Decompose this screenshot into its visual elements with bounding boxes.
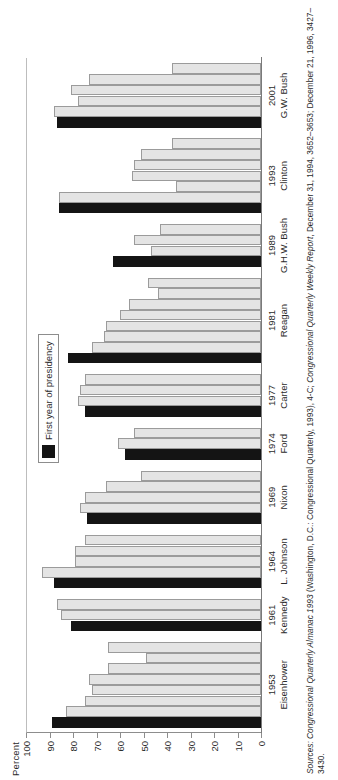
bar-subsequent-year — [134, 235, 261, 246]
bar-first-year — [68, 353, 261, 364]
bar-subsequent-year — [75, 556, 261, 567]
value-axis-tick-mark — [73, 733, 74, 738]
bar-first-year — [71, 621, 261, 632]
bar-subsequent-year — [57, 599, 261, 610]
category-label-year: 1964 — [266, 538, 278, 584]
value-axis-tick-label: 30 — [185, 741, 196, 771]
category-label-president: G.W. Bush — [278, 73, 290, 118]
bar-subsequent-year — [134, 428, 261, 439]
bar-subsequent-year — [75, 546, 261, 557]
bar-subsequent-year — [85, 696, 261, 707]
bar-subsequent-year — [129, 299, 261, 310]
category-label-1961: 1961Kennedy — [266, 596, 289, 634]
bar-subsequent-year — [89, 674, 261, 685]
category-label-president: Nixon — [278, 485, 290, 509]
bar-subsequent-year — [108, 663, 261, 674]
category-label-year: 1977 — [266, 382, 278, 408]
bar-first-year — [54, 578, 261, 589]
category-label-year: 1974 — [266, 433, 278, 454]
bar-subsequent-year — [54, 106, 261, 117]
source-italic-1: Congressional Quarterly Almanac 1993 — [305, 594, 315, 739]
bar-subsequent-year — [59, 192, 261, 203]
value-axis-title: Percent — [10, 742, 21, 776]
bar-subsequent-year — [146, 653, 261, 664]
category-label-year: 1989 — [266, 218, 278, 273]
value-axis-tick-mark — [26, 733, 27, 738]
bar-subsequent-year — [85, 374, 261, 385]
category-label-president: Carter — [278, 382, 290, 408]
category-label-president: L. Johnson — [278, 538, 290, 584]
bar-first-year — [87, 513, 261, 524]
bar-subsequent-year — [92, 342, 261, 353]
bar-subsequent-year — [118, 438, 261, 449]
value-axis-tick-label: 50 — [138, 741, 149, 771]
category-label-1964: 1964L. Johnson — [266, 538, 289, 584]
bar-subsequent-year — [106, 481, 261, 492]
bar-subsequent-year — [120, 310, 261, 321]
bar-subsequent-year — [176, 181, 261, 192]
value-axis-tick-label: 90 — [44, 741, 55, 771]
value-axis-tick-label: 20 — [209, 741, 220, 771]
category-label-2001: 2001G.W. Bush — [266, 73, 289, 118]
category-label-year: 1953 — [266, 660, 278, 710]
category-label-1974: 1974Ford — [266, 433, 289, 454]
value-axis-tick-label: 0 — [256, 741, 267, 771]
source-italic-2: Congressional Quarterly Weekly Report — [305, 237, 315, 383]
figure: Percent 1009080706050403020100 1953Eisen… — [0, 0, 338, 780]
bar-subsequent-year — [104, 331, 261, 342]
bar-subsequent-year — [92, 685, 261, 696]
value-axis-tick-label: 40 — [162, 741, 173, 771]
bar-subsequent-year — [134, 160, 261, 171]
legend-label-first-year: First year of presidency — [43, 341, 54, 440]
legend: First year of presidency — [38, 334, 59, 463]
source-note: Sources: Congressional Quarterly Almanac… — [305, 6, 327, 774]
category-label-president: Kennedy — [278, 596, 290, 634]
value-axis-tick-mark — [214, 733, 215, 738]
bar-subsequent-year — [160, 224, 261, 235]
bar-subsequent-year — [132, 171, 261, 182]
value-axis-tick-mark — [261, 733, 262, 738]
category-label-year: 1969 — [266, 485, 278, 509]
bar-subsequent-year — [151, 246, 261, 257]
bar-subsequent-year — [80, 503, 261, 514]
value-axis-tick-mark — [120, 733, 121, 738]
bar-first-year — [59, 203, 261, 214]
source-label: Sources: — [305, 741, 315, 774]
value-axis-tick-mark — [191, 733, 192, 738]
category-label-year: 1961 — [266, 596, 278, 634]
chart-stage: Percent 1009080706050403020100 1953Eisen… — [0, 0, 338, 780]
value-axis-tick-mark — [238, 733, 239, 738]
value-axis-tick-label: 10 — [232, 741, 243, 771]
category-label-1969: 1969Nixon — [266, 485, 289, 509]
category-label-year: 1993 — [266, 161, 278, 191]
value-axis-tick-mark — [167, 733, 168, 738]
value-axis-tick-mark — [144, 733, 145, 738]
category-label-president: Reagan — [278, 304, 290, 337]
bar-subsequent-year — [148, 278, 261, 289]
category-label-1981: 1981Reagan — [266, 304, 289, 337]
category-label-president: Ford — [278, 433, 290, 454]
value-axis-tick-label: 80 — [68, 741, 79, 771]
category-label-year: 1981 — [266, 304, 278, 337]
value-axis-tick-label: 70 — [91, 741, 102, 771]
category-label-1953: 1953Eisenhower — [266, 660, 289, 710]
bar-subsequent-year — [78, 96, 261, 107]
value-axis-tick-label: 100 — [21, 741, 32, 771]
category-label-year: 2001 — [266, 73, 278, 118]
bar-subsequent-year — [141, 149, 261, 160]
bar-subsequent-year — [172, 63, 261, 74]
bar-first-year — [57, 117, 261, 128]
bar-first-year — [125, 449, 261, 460]
bar-subsequent-year — [172, 138, 261, 149]
bar-first-year — [85, 406, 261, 417]
category-label-president: G.H.W. Bush — [278, 218, 290, 273]
bar-subsequent-year — [141, 471, 261, 482]
bar-subsequent-year — [106, 321, 261, 332]
category-axis-baseline — [261, 57, 262, 733]
value-axis-tick-mark — [50, 733, 51, 738]
bars-layer — [26, 58, 261, 733]
bar-subsequent-year — [66, 706, 261, 717]
bar-subsequent-year — [80, 385, 261, 396]
bar-subsequent-year — [85, 492, 261, 503]
bar-subsequent-year — [85, 535, 261, 546]
